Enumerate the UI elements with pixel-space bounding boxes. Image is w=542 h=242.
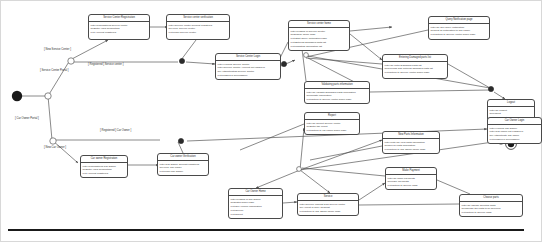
diagram-canvas: [ Service Center Portal ][ Car Owner Por…	[0, 0, 542, 242]
state-car-owner-login[interactable]: Car Owner Loginentry/Verified Car Ownere…	[487, 117, 542, 144]
state-choose-parts[interactable]: Choose partsentry/To choose selected par…	[459, 194, 523, 217]
state-activity-line: exit/Login Service center	[169, 31, 228, 35]
state-activity-line: exit/Logged in Successfully	[218, 74, 279, 78]
state-activity-line: exit/Logged in Successfully	[490, 138, 540, 142]
state-activity-line: exit/Login Car Owner	[160, 170, 207, 174]
state-title: Choose parts	[460, 195, 522, 202]
state-title: Report	[305, 113, 359, 120]
state-activities: entry/To Report Service centerdo/Enter t…	[305, 120, 359, 134]
state-title: Car Owner Home	[229, 189, 282, 196]
state-activity-line: exit/Account registered	[91, 31, 148, 35]
state-activities: entry/Service center account registeredd…	[167, 22, 229, 36]
state-new-parts-information[interactable]: New Parts Informationentry/entry/To view…	[382, 131, 440, 154]
merge-node-car-owner-hub	[297, 167, 302, 172]
state-validating-parts-information[interactable]: Validating parts informationentry/To val…	[304, 81, 370, 104]
join-node-car-owner	[178, 138, 183, 143]
page-bottom-rule	[8, 229, 524, 231]
decision-node-portal	[45, 93, 51, 99]
initial-state	[12, 91, 22, 101]
state-title: Entering Damaged parts list	[383, 55, 447, 62]
state-title: New Parts Information	[383, 132, 439, 139]
state-activity-line: exit/Return to Car Owner home page	[300, 210, 357, 214]
state-activities: entry/To validate Damaged parts informat…	[305, 89, 369, 103]
state-entering-damaged-parts-list[interactable]: Entering Damaged parts listentry/To ente…	[382, 54, 448, 79]
state-title: Service	[298, 194, 358, 201]
state-activities: entry/Service request from service cente…	[298, 201, 358, 215]
state-activity-line: exit/Return to Service page	[462, 211, 521, 215]
state-activities: entry/entry/To view parts informationdo/…	[383, 139, 439, 153]
guard-label-new_service_center: [ New Service Center ]	[44, 48, 71, 51]
join-node-service-center	[179, 58, 184, 63]
join-node-logout	[488, 86, 493, 91]
state-title: Service Center Login	[216, 54, 280, 61]
state-title: Query Notification page	[429, 17, 489, 24]
state-service-center-verification[interactable]: Service center verificationentry/Service…	[166, 14, 230, 40]
state-car-owner-registration[interactable]: Car owner Registrationentry/Unregistered…	[80, 155, 128, 178]
state-title: Service center home	[289, 21, 349, 28]
state-activities: entry/Verified Service Centerentry/Servi…	[216, 61, 280, 79]
state-title: Service center verification	[167, 15, 229, 22]
guard-label-registered_service_center: [ Registered ] Service center ]	[88, 63, 123, 66]
merge-node-service-home	[304, 53, 309, 58]
state-service-center-registration[interactable]: Service Center Registrationentry/Unregis…	[88, 14, 150, 40]
state-activity-line: exit/Return to Service center home page	[307, 98, 368, 102]
state-activity-line: exit/Return to Car Owner home page	[385, 148, 438, 152]
state-activity-line: exit/Return to Service center home page	[431, 33, 488, 37]
guard-label-car_owner_portal: [ Car Owner Portal ]	[15, 117, 39, 120]
state-activities: entry/Logged in Service Centerdo/Display…	[289, 28, 349, 49]
state-activity-line: exit/Report	[231, 213, 281, 217]
state-service-center-home[interactable]: Service center homeentry/Logged in Servi…	[288, 20, 350, 51]
state-title: Car owner Registration	[81, 156, 127, 163]
state-make-payment[interactable]: Make Paymententry/To make paymentsdo/Mak…	[385, 167, 437, 190]
join-node-service-hub	[281, 61, 286, 66]
state-activity-line: exit/Updating information list	[291, 45, 348, 49]
decision-node-service-center	[68, 58, 74, 64]
state-query-notification-page[interactable]: Query Notification pageentry/To See quer…	[428, 16, 490, 40]
state-service-center-login[interactable]: Service Center Loginentry/Verified Servi…	[215, 53, 281, 80]
state-activity-line: exit/Account registered	[83, 172, 126, 176]
state-car-owner-verification[interactable]: Car owner Verificationentry/Car Owner ac…	[157, 153, 209, 176]
state-title: Logout	[488, 100, 534, 107]
state-service[interactable]: Serviceentry/Service request from servic…	[297, 193, 359, 216]
decision-node-car-owner	[50, 138, 56, 144]
state-activities: entry/Car Owner account registereddo/Ver…	[158, 161, 208, 175]
state-title: Validating parts information	[305, 82, 369, 89]
state-activities: entry/To make paymentsdo/Make paymentsex…	[386, 175, 436, 189]
state-title: Make Payment	[386, 168, 436, 175]
state-car-owner-home[interactable]: Car Owner Homeentry/Logged in Car Ownerd…	[228, 188, 283, 219]
state-activities: entry/Logged in Car Ownerdo/Distlin home…	[229, 196, 282, 217]
state-activities: entry/Unregistered Car Ownerdo/Enter Val…	[81, 163, 127, 177]
guard-label-new_car_owner: [ New Car Owner ]	[44, 146, 66, 149]
state-activity-line: exit/Return to Service page	[388, 184, 435, 188]
state-activities: entry/Verified Car Ownerentry/Car owner …	[488, 125, 541, 143]
state-title: Car Owner Login	[488, 118, 541, 125]
guard-label-service_center_portal: [ Service Center Portal ]	[40, 69, 69, 72]
state-activity-line: exit/Return to car owner home page	[307, 129, 358, 133]
state-activities: entry/To See query notificationdo/Sent a…	[429, 24, 489, 38]
state-activities: entry/To enter Damaged parts listdo/Proc…	[383, 62, 447, 76]
state-title: Service Center Registration	[89, 15, 149, 22]
state-activities: entry/To choose selected partsdo/Choose …	[460, 202, 522, 216]
state-activities: entry/Unregistered service centerdo/Ente…	[89, 22, 149, 36]
state-report[interactable]: Reportentry/To Report Service centerdo/E…	[304, 112, 360, 135]
guard-label-registered_car_owner: [ Registered ] Car Owner ]	[100, 129, 131, 132]
state-activity-line: exit/Return to Service center home page	[385, 71, 446, 75]
state-title: Car owner Verification	[158, 154, 208, 161]
